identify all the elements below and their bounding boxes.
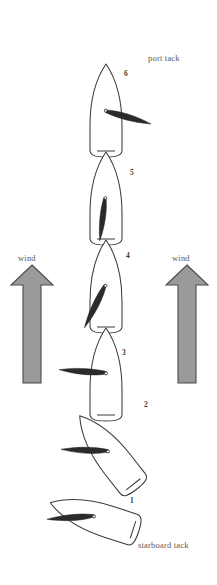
boat-label-6: 6 <box>124 69 128 78</box>
wind-arrow-right <box>166 265 208 383</box>
boat-label-5: 5 <box>130 168 134 177</box>
port-tack-label: port tack <box>148 53 180 63</box>
boat-label-1: 1 <box>130 496 134 505</box>
boat-label-3: 3 <box>122 348 126 357</box>
boat-5 <box>90 152 122 245</box>
boat-label-4: 4 <box>126 251 130 260</box>
boat-4 <box>81 240 122 333</box>
boat-1 <box>44 488 143 550</box>
starboard-tack-label: starboard tack <box>138 540 189 550</box>
boat-6 <box>90 64 152 157</box>
wind-arrow-left <box>11 265 53 383</box>
boat-2 <box>51 406 150 512</box>
boat-label-2: 2 <box>144 400 148 409</box>
wind-label-left: wind <box>18 253 36 263</box>
tacking-diagram: port tack starboard tack wind wind 6 5 4… <box>0 0 217 585</box>
wind-label-right: wind <box>172 253 190 263</box>
boat-3 <box>59 328 122 421</box>
diagram-canvas <box>0 0 217 585</box>
